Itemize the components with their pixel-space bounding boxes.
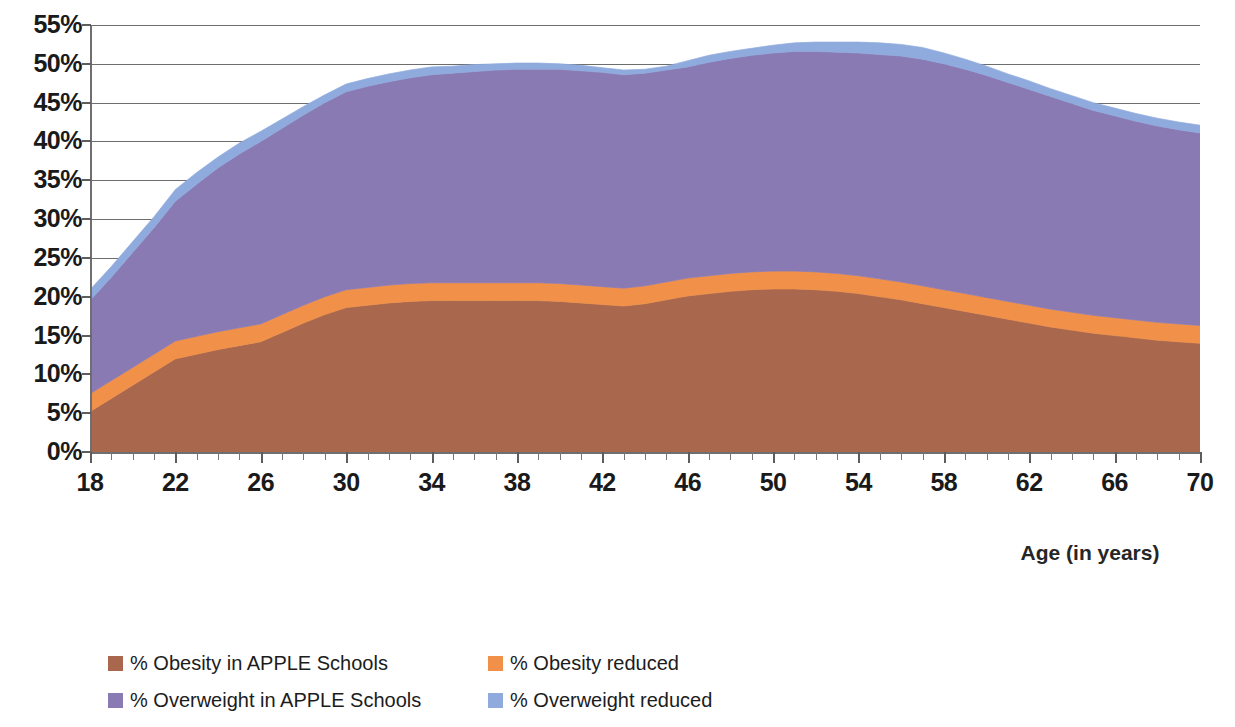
x-axis-minor-tick	[560, 452, 561, 460]
chart-legend: % Obesity in APPLE Schools % Obesity red…	[108, 645, 1028, 719]
y-axis-tick-label: 50%	[8, 51, 82, 76]
x-axis-major-tick	[261, 452, 263, 463]
x-axis-tick-label: 70	[1170, 468, 1230, 497]
legend-row: % Obesity in APPLE Schools % Obesity red…	[108, 645, 1028, 682]
x-axis-major-tick	[1029, 452, 1031, 463]
x-axis-minor-tick	[538, 452, 539, 460]
y-axis-tick-label: 25%	[8, 245, 82, 270]
y-axis-tick-label: 30%	[8, 206, 82, 231]
x-axis-major-tick	[90, 452, 92, 463]
y-axis-tick	[82, 179, 91, 181]
x-axis-tick-label: 34	[402, 468, 462, 497]
x-axis-tick-label: 54	[828, 468, 888, 497]
y-axis-tick-label: 0%	[8, 439, 82, 464]
x-axis-minor-tick	[410, 452, 411, 460]
x-axis-tick-label: 18	[60, 468, 120, 497]
legend-label: % Obesity in APPLE Schools	[130, 652, 388, 675]
y-axis-tick-label: 55%	[8, 12, 82, 37]
x-axis-major-tick	[1200, 452, 1202, 463]
legend-item-overweight-reduced: % Overweight reduced	[488, 689, 908, 712]
x-axis-line	[90, 452, 1202, 454]
x-axis-major-tick	[602, 452, 604, 463]
x-axis-tick-label: 38	[487, 468, 547, 497]
x-axis-minor-tick	[1008, 452, 1009, 460]
y-axis-tick	[82, 102, 91, 104]
legend-item-overweight-apple: % Overweight in APPLE Schools	[108, 689, 488, 712]
x-axis-minor-tick	[133, 452, 134, 460]
x-axis-major-tick	[1115, 452, 1117, 463]
y-axis-line	[90, 25, 92, 453]
x-axis-minor-tick	[389, 452, 390, 460]
legend-swatch-icon	[108, 693, 123, 708]
y-axis-labels: 0%5%10%15%20%25%30%35%40%45%50%55%	[0, 0, 82, 727]
x-axis-minor-tick	[1157, 452, 1158, 460]
x-axis-minor-tick	[624, 452, 625, 460]
y-axis-tick	[82, 140, 91, 142]
y-axis-tick-label: 15%	[8, 323, 82, 348]
legend-row: % Overweight in APPLE Schools % Overweig…	[108, 682, 1028, 719]
y-axis-tick	[82, 335, 91, 337]
x-axis-minor-tick	[325, 452, 326, 460]
x-axis-minor-tick	[923, 452, 924, 460]
x-axis-tick-label: 46	[658, 468, 718, 497]
x-axis-minor-tick	[794, 452, 795, 460]
x-axis-minor-tick	[880, 452, 881, 460]
x-axis-minor-tick	[453, 452, 454, 460]
y-axis-tick-label: 5%	[8, 400, 82, 425]
legend-label: % Overweight in APPLE Schools	[130, 689, 421, 712]
x-axis-minor-tick	[1072, 452, 1073, 460]
x-axis-tick-label: 22	[145, 468, 205, 497]
legend-label: % Obesity reduced	[510, 652, 679, 675]
x-axis-title: Age (in years)	[955, 541, 1225, 565]
x-axis-tick-label: 58	[914, 468, 974, 497]
y-axis-tick-label: 40%	[8, 128, 82, 153]
x-axis-major-tick	[858, 452, 860, 463]
x-axis-major-tick	[517, 452, 519, 463]
x-axis-minor-tick	[901, 452, 902, 460]
x-axis-minor-tick	[1179, 452, 1180, 460]
x-axis-minor-tick	[368, 452, 369, 460]
x-axis-tick-label: 30	[316, 468, 376, 497]
y-axis-tick	[82, 412, 91, 414]
legend-label: % Overweight reduced	[510, 689, 712, 712]
x-axis-minor-tick	[303, 452, 304, 460]
y-axis-tick	[82, 218, 91, 220]
x-axis-minor-tick	[581, 452, 582, 460]
y-axis-tick	[82, 296, 91, 298]
x-axis-minor-tick	[111, 452, 112, 460]
x-axis-minor-tick	[730, 452, 731, 460]
stacked-area-series	[90, 25, 1200, 452]
y-axis-tick	[82, 24, 91, 26]
x-axis-minor-tick	[645, 452, 646, 460]
y-axis-tick-label: 10%	[8, 361, 82, 386]
y-axis-tick	[82, 63, 91, 65]
plot-area	[90, 25, 1200, 452]
x-axis-minor-tick	[752, 452, 753, 460]
y-axis-tick	[82, 373, 91, 375]
x-axis-minor-tick	[239, 452, 240, 460]
x-axis-tick-label: 62	[999, 468, 1059, 497]
x-axis-minor-tick	[709, 452, 710, 460]
x-axis-minor-tick	[666, 452, 667, 460]
x-axis-minor-tick	[1051, 452, 1052, 460]
x-axis-minor-tick	[1136, 452, 1137, 460]
x-axis-minor-tick	[218, 452, 219, 460]
legend-swatch-icon	[488, 693, 503, 708]
x-axis-major-tick	[944, 452, 946, 463]
x-axis-minor-tick	[987, 452, 988, 460]
x-axis-tick-label: 50	[743, 468, 803, 497]
legend-swatch-icon	[488, 656, 503, 671]
x-axis-major-tick	[346, 452, 348, 463]
legend-swatch-icon	[108, 656, 123, 671]
x-axis-minor-tick	[816, 452, 817, 460]
x-axis-minor-tick	[496, 452, 497, 460]
x-axis-minor-tick	[965, 452, 966, 460]
area-chart: 0%5%10%15%20%25%30%35%40%45%50%55% 18222…	[0, 0, 1235, 727]
x-axis-tick-label: 26	[231, 468, 291, 497]
x-axis-minor-tick	[197, 452, 198, 460]
x-axis-minor-tick	[1093, 452, 1094, 460]
x-axis-tick-label: 66	[1085, 468, 1145, 497]
y-axis-tick-label: 35%	[8, 167, 82, 192]
y-axis-tick	[82, 257, 91, 259]
x-axis-tick-label: 42	[572, 468, 632, 497]
